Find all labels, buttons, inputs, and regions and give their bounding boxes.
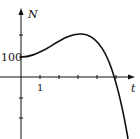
- x-axis-arrow-icon: [128, 75, 135, 80]
- x-axis-label: t: [131, 82, 136, 95]
- y-axis-arrow-icon: [19, 8, 24, 15]
- y-tick-label-100: 100: [1, 51, 22, 64]
- x-tick-label-1: 1: [37, 82, 43, 93]
- y-axis-label: N: [27, 8, 38, 21]
- chart: N t 100 1: [0, 0, 140, 139]
